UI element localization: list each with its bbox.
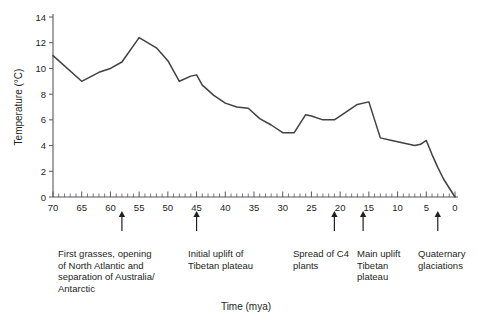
x-tick-label-25: 25	[306, 202, 317, 213]
y-tick-label-14: 14	[35, 12, 46, 23]
x-tick-label-70: 70	[48, 202, 59, 213]
x-axis-title: Time (mya)	[221, 301, 271, 312]
x-tick-label-65: 65	[76, 202, 87, 213]
x-tick-label-30: 30	[277, 202, 288, 213]
annotation-label-initial-uplift: Initial uplift of Tibetan plateau	[188, 248, 278, 271]
x-tick-label-0: 0	[452, 202, 457, 213]
temperature-time-chart: 024681012147065605550454035302520151050T…	[0, 0, 478, 325]
y-tick-label-12: 12	[35, 37, 46, 48]
x-tick-label-15: 15	[364, 202, 375, 213]
y-tick-label-2: 2	[41, 166, 46, 177]
x-tick-label-55: 55	[134, 202, 145, 213]
y-tick-label-0: 0	[41, 192, 46, 203]
annotation-arrowhead-first-grasses	[119, 211, 125, 217]
x-tick-label-20: 20	[335, 202, 346, 213]
y-tick-label-6: 6	[41, 114, 46, 125]
annotation-label-spread-c4: Spread of C4 plants	[293, 248, 355, 271]
x-tick-label-50: 50	[163, 202, 174, 213]
x-tick-label-40: 40	[220, 202, 231, 213]
x-tick-label-10: 10	[392, 202, 403, 213]
temperature-series-line	[53, 38, 455, 197]
y-tick-label-10: 10	[35, 63, 46, 74]
annotation-arrowhead-quaternary	[435, 211, 441, 217]
y-tick-label-4: 4	[41, 140, 46, 151]
annotation-label-first-grasses: First grasses, opening of North Atlantic…	[58, 248, 186, 294]
x-tick-label-5: 5	[424, 202, 429, 213]
x-tick-label-60: 60	[105, 202, 116, 213]
y-axis-title: Temperature (°C)	[13, 69, 24, 146]
y-tick-label-8: 8	[41, 89, 46, 100]
annotation-label-main-uplift: Main uplift Tibetan plateau	[357, 248, 413, 283]
annotation-label-quaternary: Quaternary glaciations	[418, 248, 478, 271]
x-tick-label-35: 35	[249, 202, 260, 213]
